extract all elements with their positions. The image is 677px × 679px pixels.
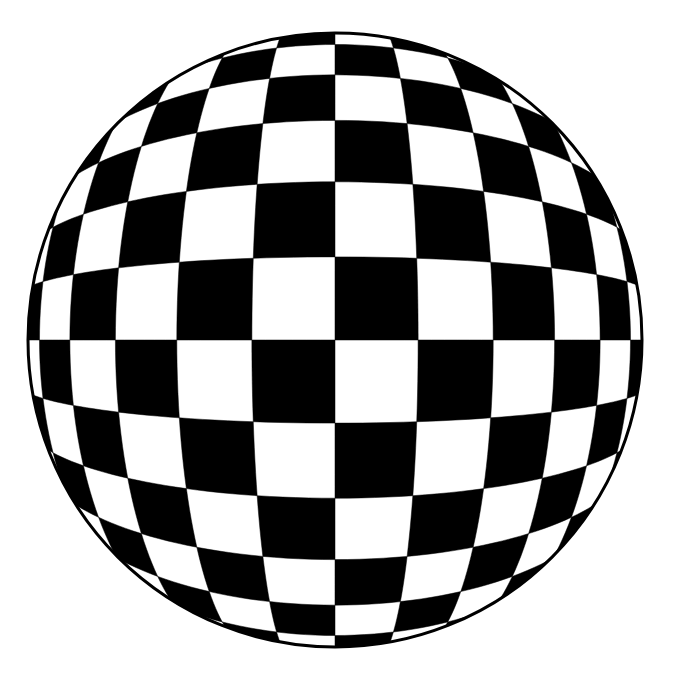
checker-cell [551, 340, 600, 412]
checker-cell [39, 340, 73, 405]
checker-cell [253, 182, 335, 258]
checker-cell [413, 184, 491, 262]
checker-cell [186, 124, 262, 192]
checker-cell [484, 412, 552, 488]
checker-cell [179, 418, 257, 496]
checkerboard-figure: Distorted checkerboard test pattern [0, 0, 677, 679]
checker-cell [257, 496, 335, 560]
checker-cell [407, 489, 483, 557]
checker-cell [263, 75, 335, 124]
checker-cell [417, 340, 493, 422]
checker-cell [335, 556, 407, 605]
checker-cell [491, 262, 555, 340]
checker-cell [335, 44, 400, 78]
checker-cell [335, 422, 417, 498]
checker-cell [270, 602, 335, 636]
checker-cell [119, 191, 187, 267]
checker-cell [335, 120, 413, 184]
checker-cell [177, 258, 253, 340]
checker-cell [70, 268, 119, 340]
checker-cell [597, 275, 631, 340]
checker-cell [335, 257, 418, 340]
image-canvas: Distorted checkerboard test pattern [0, 0, 677, 679]
checker-cell [115, 340, 179, 418]
checker-cell [252, 340, 335, 423]
